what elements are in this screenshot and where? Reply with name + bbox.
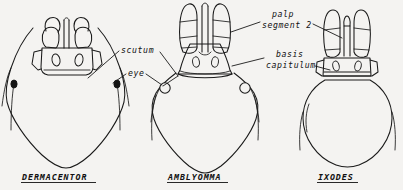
callout-label-scutum: scutum bbox=[121, 45, 154, 55]
ixodes-palp-left-joint1 bbox=[324, 28, 340, 30]
amblyomma-palp-left-joint2 bbox=[180, 20, 197, 22]
callout-label-basis-line1: basis bbox=[276, 49, 304, 59]
specimen-dermacentor: DERMACENTOR bbox=[2, 17, 129, 182]
ixodes-body-outline bbox=[303, 80, 392, 167]
dermacentor-leg-right-2 bbox=[117, 83, 120, 130]
amblyomma-hypostome-tip bbox=[202, 3, 208, 6]
dermacentor-porose-left bbox=[51, 53, 61, 66]
callout-label-palp-line1: palp bbox=[271, 9, 294, 19]
leader-scutum-right bbox=[160, 52, 178, 76]
amblyomma-palp-right-joint1 bbox=[213, 36, 230, 38]
amblyomma-eye-right bbox=[240, 83, 250, 93]
tick-comparison-figure: DERMACENTOR bbox=[0, 0, 403, 190]
leader-eye-right bbox=[146, 74, 162, 85]
dermacentor-porose-right bbox=[74, 53, 84, 66]
callout-label-basis-line2: capitulum bbox=[266, 60, 316, 70]
amblyomma-porose-right bbox=[211, 56, 219, 67]
leader-basis-right bbox=[315, 66, 330, 70]
ixodes-basis-capituli bbox=[323, 58, 371, 76]
amblyomma-palp-right-joint2 bbox=[213, 20, 230, 22]
specimen-ixodes: IXODES bbox=[300, 10, 396, 183]
ixodes-palp-left-joint2 bbox=[325, 49, 340, 50]
genus-label-dermacentor: DERMACENTOR bbox=[21, 172, 87, 182]
specimen-amblyomma: AMBLYOMMA bbox=[151, 3, 259, 183]
leader-palp-left bbox=[231, 22, 260, 32]
ixodes-porose-right bbox=[354, 60, 362, 71]
amblyomma-hypostome-base bbox=[199, 52, 211, 55]
dermacentor-hypostome bbox=[64, 20, 69, 48]
amblyomma-palp-left-outer bbox=[180, 4, 197, 53]
ixodes-palp-right-joint1 bbox=[354, 28, 370, 30]
figure-canvas: DERMACENTOR bbox=[0, 0, 403, 190]
dermacentor-palp-right-segment2 bbox=[75, 27, 92, 48]
amblyomma-palp-right-joint3 bbox=[213, 47, 228, 48]
dermacentor-leg-left-2 bbox=[11, 83, 14, 130]
dermacentor-body-outline bbox=[6, 28, 125, 168]
ixodes-hypostome-tip bbox=[344, 16, 351, 26]
ixodes-basis-rim bbox=[323, 72, 371, 76]
callout-palp-segment-2: palp segment 2 bbox=[231, 9, 342, 38]
amblyomma-palp-left-joint3 bbox=[182, 47, 197, 48]
callout-scutum: scutum bbox=[88, 45, 178, 86]
callout-basis-capituli: basis capitulum bbox=[232, 49, 330, 70]
amblyomma-basis-capituli bbox=[178, 44, 232, 74]
amblyomma-hypostome bbox=[202, 6, 208, 52]
ixodes-hypostome bbox=[344, 26, 350, 56]
ixodes-porose-left bbox=[332, 60, 340, 71]
genus-label-ixodes: IXODES bbox=[318, 172, 354, 182]
leader-palp-right bbox=[313, 24, 342, 38]
genus-label-amblyomma: AMBLYOMMA bbox=[167, 172, 221, 182]
dermacentor-scutum bbox=[41, 48, 93, 75]
dermacentor-palp-left-segment2 bbox=[42, 27, 59, 48]
ixodes-palp-right-joint2 bbox=[354, 49, 369, 50]
callout-label-eye: eye bbox=[128, 68, 145, 78]
leader-basis-left bbox=[232, 58, 264, 66]
ixodes-body-inner-margin bbox=[306, 104, 309, 132]
dermacentor-eye-left bbox=[11, 80, 17, 88]
dermacentor-hypostome-tip bbox=[64, 18, 69, 20]
amblyomma-palp-left-joint1 bbox=[180, 36, 197, 38]
amblyomma-porose-left bbox=[192, 56, 200, 67]
amblyomma-palp-right-outer bbox=[213, 4, 230, 53]
callout-label-palp-line2: segment 2 bbox=[262, 20, 312, 30]
amblyomma-basis-rim bbox=[178, 74, 232, 78]
